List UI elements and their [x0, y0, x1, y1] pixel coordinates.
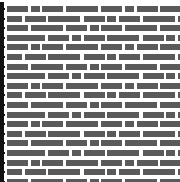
weft-band — [25, 169, 46, 175]
weft-band — [143, 54, 175, 60]
weft-band — [143, 150, 164, 156]
weft-band — [178, 169, 180, 175]
weft-band — [143, 92, 175, 98]
weft-band — [66, 160, 98, 166]
weft-band — [90, 25, 99, 31]
weft-band — [84, 35, 105, 41]
weft-band — [101, 44, 122, 50]
weft-band — [25, 16, 46, 22]
weft-band — [84, 169, 105, 175]
weft-band — [143, 16, 175, 22]
weft-band — [84, 73, 105, 79]
weft-band — [7, 64, 28, 70]
weft-band — [119, 54, 140, 60]
weft-band — [84, 92, 105, 98]
weft-band — [7, 25, 28, 31]
weft-band — [7, 121, 28, 127]
weft-band — [31, 140, 63, 146]
weft-band — [178, 131, 180, 137]
weft-band — [7, 150, 45, 156]
weft-band — [160, 44, 180, 50]
weft-band — [66, 64, 87, 70]
weft-band — [66, 140, 87, 146]
weft-band — [178, 16, 180, 22]
weft-band — [166, 73, 175, 79]
weft-band — [7, 169, 22, 175]
weft-band — [125, 179, 157, 182]
weft-band — [101, 25, 122, 31]
weft-band — [101, 140, 122, 146]
weft-band — [48, 92, 80, 98]
weft-band — [107, 112, 139, 118]
weft-band — [31, 25, 63, 31]
weft-band — [125, 160, 134, 166]
weft-band — [31, 6, 40, 12]
weft-band — [84, 54, 105, 60]
weft-band — [143, 169, 175, 175]
weft-band — [66, 6, 98, 12]
weft-band — [48, 169, 80, 175]
weft-band — [31, 102, 63, 108]
weft-band — [25, 92, 46, 98]
weft-band — [7, 131, 22, 137]
weft-band — [125, 102, 157, 108]
weft-band — [178, 35, 180, 41]
weft-band — [7, 54, 22, 60]
weft-band — [107, 35, 139, 41]
weft-band — [7, 73, 45, 79]
woven-pattern-image — [0, 0, 180, 182]
weft-band — [42, 121, 63, 127]
weft-band — [7, 6, 28, 12]
weft-band — [125, 6, 134, 12]
weft-band — [107, 16, 116, 22]
weft-band — [166, 112, 175, 118]
weft-band — [107, 92, 116, 98]
weft-band — [42, 44, 63, 50]
weft-band — [178, 112, 180, 118]
weft-band — [31, 64, 63, 70]
warp-thread — [0, 175, 4, 182]
weft-band — [25, 54, 46, 60]
weft-band — [48, 54, 80, 60]
weft-band — [160, 6, 180, 12]
weft-band — [160, 140, 180, 146]
weft-band — [143, 35, 164, 41]
weft-band — [72, 35, 81, 41]
weft-band — [42, 160, 63, 166]
weft-band — [178, 150, 180, 156]
weft-band — [31, 179, 63, 182]
weft-band — [101, 64, 122, 70]
weft-band — [7, 140, 28, 146]
weft-band — [101, 102, 122, 108]
weft-band — [66, 25, 87, 31]
weft-band — [66, 121, 98, 127]
weft-band — [125, 44, 134, 50]
weft-band — [7, 102, 28, 108]
weft-band — [125, 83, 134, 89]
weft-band — [48, 73, 69, 79]
weft-band — [48, 16, 80, 22]
weft-band — [119, 92, 140, 98]
weft-band — [143, 131, 175, 137]
weft-band — [137, 44, 158, 50]
weft-band — [125, 25, 157, 31]
weft-band — [101, 6, 122, 12]
weft-band — [42, 6, 63, 12]
weft-band — [7, 92, 22, 98]
weft-band — [137, 160, 158, 166]
weft-band — [125, 121, 134, 127]
weft-band — [137, 121, 158, 127]
weft-band — [143, 112, 164, 118]
weft-band — [7, 179, 28, 182]
weft-band — [48, 131, 80, 137]
weft-band — [90, 140, 99, 146]
weft-band — [66, 83, 98, 89]
weft-band — [178, 92, 180, 98]
weft-band — [178, 73, 180, 79]
weft-band — [7, 16, 22, 22]
weft-band — [160, 160, 180, 166]
weft-band — [72, 73, 81, 79]
weft-band — [119, 131, 140, 137]
weft-band — [31, 44, 40, 50]
weft-band — [101, 121, 122, 127]
